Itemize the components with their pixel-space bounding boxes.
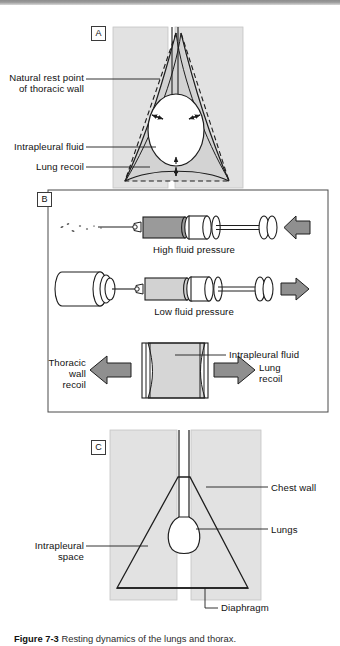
panel-tag-a: A xyxy=(91,26,106,41)
figure-caption: Figure 7-3 Resting dynamics of the lungs… xyxy=(14,633,330,646)
label-thoracic-wall-recoil-line3: recoil xyxy=(16,379,86,391)
figure-root: A B C Natural rest point of thoracic wal… xyxy=(0,0,340,646)
label-intrapleural-space-line2: space xyxy=(0,551,84,563)
figure-caption-label: Figure 7-3 xyxy=(14,633,59,644)
label-thoracic-wall-recoil-line2: wall xyxy=(16,368,86,380)
label-natural-rest-point-line2: of thoracic wall xyxy=(0,83,84,95)
label-lung-recoil-a: Lung recoil xyxy=(0,161,84,173)
label-chest-wall: Chest wall xyxy=(271,482,316,494)
label-lungs: Lungs xyxy=(271,524,298,536)
label-lung-recoil-b-line1: Lung xyxy=(259,362,281,374)
label-intrapleural-fluid-b: Intrapleural fluid xyxy=(229,349,299,361)
label-high-fluid-pressure: High fluid pressure xyxy=(124,244,264,256)
figure-caption-text: Resting dynamics of the lungs and thorax… xyxy=(61,633,236,644)
label-low-fluid-pressure: Low fluid pressure xyxy=(124,306,264,318)
panel-c-artwork xyxy=(86,430,268,608)
label-intrapleural-fluid-a: Intrapleural fluid xyxy=(0,141,84,153)
syringe-low-pressure xyxy=(55,272,309,306)
panel-tag-b: B xyxy=(37,192,52,207)
panel-a-artwork xyxy=(86,27,243,188)
label-diaphragm: Diaphragm xyxy=(221,602,269,614)
label-natural-rest-point-line1: Natural rest point xyxy=(0,72,84,84)
label-thoracic-wall-recoil-line1: Thoracic xyxy=(16,357,86,369)
syringe-high-pressure xyxy=(60,216,310,239)
panel-b-artwork xyxy=(48,190,328,412)
label-intrapleural-space-line1: Intrapleural xyxy=(0,540,84,552)
label-lung-recoil-b-line2: recoil xyxy=(259,373,283,385)
panel-tag-c: C xyxy=(91,440,106,455)
